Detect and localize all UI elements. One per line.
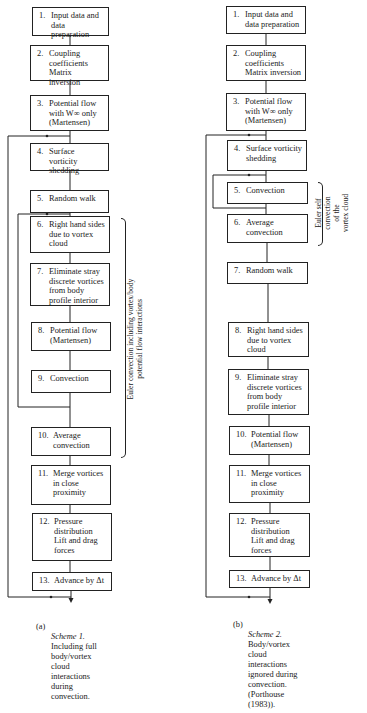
scheme-b-step-3: 3. Potential flow with W∞ only (Martense…: [226, 93, 306, 131]
caption-title: Scheme 1.: [51, 632, 85, 641]
scheme-b-step-1: 1. Input data and data preparation: [226, 6, 306, 34]
step-number: 1.: [39, 11, 45, 21]
scheme-a-step-8: 8. Potential flow (Martensen): [31, 322, 111, 351]
scheme-b-step-2: 2. Coupling coefficients Matrix inversio…: [226, 45, 306, 81]
step-label: Merge vortices in close proximity: [38, 469, 107, 498]
step-number: 4.: [37, 147, 43, 157]
step-label: Potential flow with W∞ only (Martensen): [233, 97, 302, 126]
step-number: 1.: [233, 10, 239, 20]
scheme-b-caption: (b) Scheme 2.Body/vortex cloud interacti…: [233, 610, 323, 713]
scheme-b-step-12: 12. Pressure distribution Lift and drag …: [229, 513, 310, 557]
scheme-b-step-6: 6. Average convection: [227, 214, 308, 243]
scheme-b-step-4: 4. Surface vorticity shedding: [227, 140, 307, 171]
step-number: 13.: [236, 574, 246, 584]
scheme-a-step-9: 9. Convection: [31, 370, 111, 393]
step-label: Surface vorticity shedding: [234, 144, 303, 163]
step-label: Random walk: [234, 266, 304, 276]
scheme-a-step-13: 13. Advance by Δt: [32, 572, 112, 591]
caption-tag: (b): [233, 620, 243, 630]
step-number: 10.: [38, 431, 48, 441]
scheme-a-step-12: 12. Pressure distribution Lift and drag …: [32, 513, 112, 561]
step-label: Pressure distribution Lift and drag forc…: [236, 517, 306, 555]
step-number: 12.: [39, 517, 49, 527]
scheme-b-step-10: 10. Potential flow (Martensen): [229, 426, 310, 455]
scheme-b-step-13: 13. Advance by Δt: [229, 570, 310, 588]
step-number: 6.: [234, 218, 240, 228]
step-label: Coupling coefficients Matrix inversion: [37, 49, 105, 87]
step-label: Eliminate stray discrete vortices from b…: [37, 267, 106, 305]
scheme-a-step-1: 1. Input data and data preparation: [32, 7, 109, 36]
scheme-a-step-11: 11. Merge vortices in close proximity: [31, 465, 111, 505]
scheme-b-bracket-label: Euler self convection of the vortex clou…: [314, 183, 354, 243]
step-label: Eliminate stray discrete vortices from b…: [235, 373, 305, 411]
scheme-b-step-11: 11. Merge vortices in close proximity: [229, 465, 310, 503]
scheme-b-step-8: 8. Right hand sides due to vortex cloud: [228, 322, 309, 357]
step-label: Right hand sides due to vortex cloud: [37, 220, 106, 249]
step-label: Right hand sides due to vortex cloud: [235, 326, 305, 355]
step-label: Surface vorticity shedding: [37, 147, 105, 176]
step-label: Input data and data preparation: [39, 11, 105, 40]
caption-body: Including full body/vortex cloud interac…: [51, 642, 97, 701]
step-number: 7.: [234, 266, 240, 276]
step-label: Potential flow (Martensen): [38, 326, 107, 345]
step-number: 4.: [234, 144, 240, 154]
step-number: 5.: [37, 194, 43, 204]
step-number: 5.: [234, 186, 240, 196]
step-label: Random walk: [37, 194, 105, 204]
step-number: 13.: [39, 576, 49, 586]
step-label: Convection: [38, 374, 107, 384]
step-label: Average convection: [234, 218, 304, 237]
step-number: 3.: [233, 97, 239, 107]
caption-tag: (a): [36, 622, 45, 632]
step-number: 9.: [235, 373, 241, 383]
step-number: 9.: [38, 374, 44, 384]
step-label: Potential flow (Martensen): [236, 430, 306, 449]
step-number: 3.: [37, 99, 43, 109]
step-label: Advance by Δt: [236, 574, 306, 584]
step-number: 7.: [37, 267, 43, 277]
step-label: Convection: [234, 186, 304, 196]
caption-title: Scheme 2.: [248, 630, 282, 639]
scheme-b-step-7: 7. Random walk: [227, 262, 308, 284]
step-label: Input data and data preparation: [233, 10, 302, 29]
step-label: Merge vortices in close proximity: [236, 469, 306, 498]
scheme-a-step-3: 3. Potential flow with W∞ only (Martense…: [30, 95, 109, 131]
caption-body: Body/vortex cloud interactions ignored d…: [248, 640, 298, 709]
scheme-a-step-7: 7. Eliminate stray discrete vortices fro…: [30, 263, 110, 306]
scheme-a-step-5: 5. Random walk: [30, 190, 109, 213]
step-number: 6.: [37, 220, 43, 230]
scheme-a-step-10: 10. Average convection: [31, 427, 111, 456]
scheme-b-step-9: 9. Eliminate stray discrete vortices fro…: [228, 369, 309, 415]
step-number: 11.: [236, 469, 246, 479]
step-number: 12.: [236, 517, 246, 527]
step-number: 2.: [37, 49, 43, 59]
step-number: 8.: [235, 326, 241, 336]
step-label: Coupling coefficients Matrix inversion: [233, 49, 302, 78]
scheme-a-step-6: 6. Right hand sides due to vortex cloud: [30, 216, 110, 253]
step-number: 10.: [236, 430, 246, 440]
scheme-a-step-2: 2. Coupling coefficients Matrix inversio…: [30, 45, 109, 81]
step-number: 11.: [38, 469, 48, 479]
step-label: Potential flow with W∞ only (Martensen): [37, 99, 105, 128]
scheme-b-step-5: 5. Convection: [227, 182, 308, 204]
scheme-a-caption: (a) Scheme 1.Including full body/vortex …: [36, 612, 116, 712]
step-number: 2.: [233, 49, 239, 59]
scheme-a-bracket-label: Euler convection including vortex/body p…: [126, 224, 146, 454]
step-number: 8.: [38, 326, 44, 336]
scheme-a-step-4: 4. Surface vorticity shedding: [30, 143, 109, 171]
